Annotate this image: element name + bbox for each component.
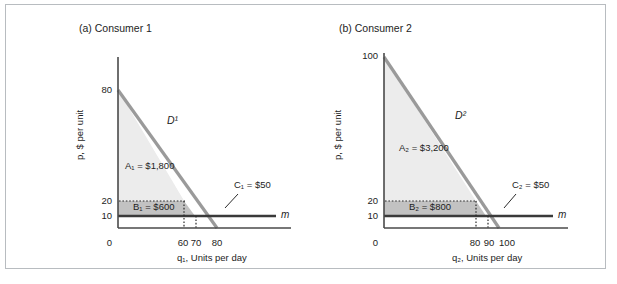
panel-b-ytick-100: 100 <box>346 50 378 61</box>
panel-a-x-axis-label: q₁, Units per day <box>177 252 247 263</box>
panel-a-ytick-20: 20 <box>86 195 112 206</box>
panel-b-ytick-20: 20 <box>352 195 378 206</box>
area-c1-fill <box>184 201 195 216</box>
panel-a-plot <box>6 5 306 270</box>
panel-a-ytick-10: 10 <box>86 210 112 221</box>
m-line-b-label: m <box>558 209 566 220</box>
area-b1-label: B₁ = $600 <box>133 201 175 212</box>
panel-consumer-2: (b) Consumer 2 p, $ per unit <box>264 5 607 270</box>
panel-consumer-1: (a) Consumer 1 p, $ per unit <box>6 5 306 270</box>
panel-a-ytick-80: 80 <box>86 84 112 95</box>
area-a2-label: A₂ = $3,200 <box>399 142 449 153</box>
panel-a-xtick-70: 70 <box>185 237 207 248</box>
demand-curve-d2-label: D² <box>455 109 466 121</box>
panel-b-ytick-0: 0 <box>352 237 378 248</box>
panel-b-plot <box>264 5 607 270</box>
area-c2-label: C₂ = $50 <box>512 179 549 190</box>
c1-leader-line <box>225 194 238 208</box>
area-b2-label: B₂ = $800 <box>409 201 451 212</box>
area-a1-label: A₁ = $1,800 <box>125 160 174 171</box>
figure-frame: (a) Consumer 1 p, $ per unit <box>5 4 606 269</box>
area-a1-fill-2 <box>118 90 184 201</box>
panel-a-ytick-0: 0 <box>86 237 112 248</box>
panel-b-x-axis-label: q₂, Units per day <box>452 252 522 263</box>
panel-b-ytick-10: 10 <box>352 210 378 221</box>
panel-b-xtick-100: 100 <box>494 237 520 248</box>
c2-leader-line <box>504 194 516 208</box>
demand-curve-d1-label: D¹ <box>167 114 178 126</box>
panel-a-xtick-80: 80 <box>206 237 228 248</box>
